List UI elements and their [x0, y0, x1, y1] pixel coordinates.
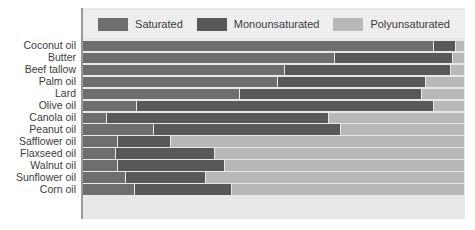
legend-swatch-polyunsaturated — [333, 18, 363, 31]
chart-rows: Coconut oilButterBeef tallowPalm oilLard… — [0, 40, 465, 216]
row-label: Sunflower oil — [0, 172, 76, 183]
bar-segment-monounsaturated[interactable] — [153, 124, 340, 134]
chart-row: Walnut oil — [0, 160, 465, 171]
bar-segment-saturated[interactable] — [83, 77, 277, 87]
bar-segment-saturated[interactable] — [83, 172, 125, 182]
bar-track — [83, 148, 463, 158]
bar-segment-monounsaturated[interactable] — [115, 148, 215, 158]
row-label: Beef tallow — [0, 64, 76, 75]
row-label: Safflower oil — [0, 136, 76, 147]
chart-row: Sunflower oil — [0, 172, 465, 183]
bar-segment-monounsaturated[interactable] — [433, 41, 457, 51]
legend-label-saturated: Saturated — [135, 19, 183, 30]
chart-legend: Saturated Monounsaturated Polyunsaturate… — [83, 10, 465, 38]
bar-segment-monounsaturated[interactable] — [277, 77, 426, 87]
bar-segment-saturated[interactable] — [83, 89, 239, 99]
chart-row: Peanut oil — [0, 124, 465, 135]
bar-track — [83, 77, 463, 87]
row-label: Olive oil — [0, 100, 76, 111]
row-label: Flaxseed oil — [0, 148, 76, 159]
bar-track — [83, 113, 463, 123]
row-label: Canola oil — [0, 112, 76, 123]
row-label: Butter — [0, 52, 76, 63]
chart-row: Canola oil — [0, 112, 465, 123]
row-label: Walnut oil — [0, 160, 76, 171]
chart-row: Butter — [0, 52, 465, 63]
bar-segment-saturated[interactable] — [83, 184, 134, 194]
bar-track — [83, 172, 463, 182]
legend-entry-saturated[interactable]: Saturated — [98, 18, 183, 31]
bar-segment-polyunsaturated[interactable] — [452, 53, 464, 63]
bar-segment-saturated[interactable] — [83, 136, 117, 146]
bar-segment-polyunsaturated[interactable] — [425, 77, 464, 87]
bar-track — [83, 65, 463, 75]
bar-segment-polyunsaturated[interactable] — [231, 184, 464, 194]
bar-segment-monounsaturated[interactable] — [134, 184, 232, 194]
legend-entry-monounsaturated[interactable]: Monounsaturated — [197, 18, 320, 31]
bar-segment-polyunsaturated[interactable] — [450, 65, 464, 75]
bar-segment-saturated[interactable] — [83, 53, 334, 63]
bar-segment-polyunsaturated[interactable] — [340, 124, 465, 134]
row-label: Palm oil — [0, 76, 76, 87]
bar-segment-monounsaturated[interactable] — [239, 89, 422, 99]
chart-row: Beef tallow — [0, 64, 465, 75]
bar-segment-monounsaturated[interactable] — [117, 160, 224, 170]
bar-segment-polyunsaturated[interactable] — [214, 148, 464, 158]
bar-segment-polyunsaturated[interactable] — [421, 89, 464, 99]
bar-track — [83, 160, 463, 170]
legend-label-polyunsaturated: Polyunsaturated — [370, 19, 450, 30]
bar-segment-saturated[interactable] — [83, 101, 136, 111]
bar-segment-monounsaturated[interactable] — [106, 113, 329, 123]
row-label: Lard — [0, 88, 76, 99]
bar-track — [83, 41, 463, 51]
bar-segment-monounsaturated[interactable] — [136, 101, 433, 111]
bar-segment-polyunsaturated[interactable] — [224, 160, 464, 170]
bar-segment-monounsaturated[interactable] — [125, 172, 206, 182]
bar-segment-polyunsaturated[interactable] — [170, 136, 464, 146]
chart-row: Olive oil — [0, 100, 465, 111]
legend-label-monounsaturated: Monounsaturated — [234, 19, 320, 30]
chart-row: Flaxseed oil — [0, 148, 465, 159]
bar-track — [83, 124, 463, 134]
chart-row: Corn oil — [0, 184, 465, 195]
chart-row: Lard — [0, 88, 465, 99]
bar-segment-polyunsaturated[interactable] — [328, 113, 464, 123]
bar-segment-saturated[interactable] — [83, 41, 433, 51]
bar-segment-saturated[interactable] — [83, 65, 284, 75]
bar-track — [83, 184, 463, 194]
bar-track — [83, 53, 463, 63]
bar-segment-monounsaturated[interactable] — [284, 65, 450, 75]
bar-segment-saturated[interactable] — [83, 113, 106, 123]
bar-track — [83, 89, 463, 99]
bar-segment-saturated[interactable] — [83, 124, 153, 134]
bar-segment-polyunsaturated[interactable] — [205, 172, 464, 182]
chart-row: Palm oil — [0, 76, 465, 87]
row-label: Coconut oil — [0, 40, 76, 51]
row-label: Peanut oil — [0, 124, 76, 135]
bar-track — [83, 136, 463, 146]
bar-segment-monounsaturated[interactable] — [334, 53, 453, 63]
legend-swatch-monounsaturated — [197, 18, 227, 31]
legend-swatch-saturated — [98, 18, 128, 31]
legend-entry-polyunsaturated[interactable]: Polyunsaturated — [333, 18, 450, 31]
bar-track — [83, 101, 463, 111]
chart-row: Safflower oil — [0, 136, 465, 147]
bar-segment-monounsaturated[interactable] — [117, 136, 171, 146]
chart-row: Coconut oil — [0, 40, 465, 51]
bar-segment-saturated[interactable] — [83, 148, 115, 158]
row-label: Corn oil — [0, 184, 76, 195]
bar-segment-saturated[interactable] — [83, 160, 117, 170]
stacked-bar-chart: Saturated Monounsaturated Polyunsaturate… — [0, 0, 475, 230]
bar-segment-polyunsaturated[interactable] — [455, 41, 464, 51]
bar-segment-polyunsaturated[interactable] — [433, 101, 464, 111]
